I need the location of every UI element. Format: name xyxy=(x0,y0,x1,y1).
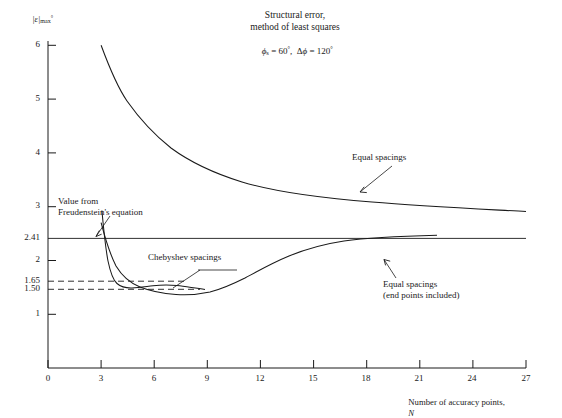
leader-freudenstein-head xyxy=(96,230,102,236)
series-equal-spacings-endpoints xyxy=(102,211,205,290)
y-axis-label: |ε|max° xyxy=(28,4,53,26)
x-axis-ticks xyxy=(48,360,526,368)
y-axis-label-degree: ° xyxy=(51,15,53,21)
annotation-equal-spacings-endpoints-line2: (end points included) xyxy=(383,290,459,301)
leader-equal-spacings xyxy=(360,166,392,192)
degree-sign-2: ° xyxy=(330,45,333,52)
x-tick-label-18: 18 xyxy=(356,373,376,384)
subtitle-separator: , Δ xyxy=(290,45,303,55)
leader-equal-endpoints xyxy=(384,260,396,279)
y-tick-label-6: 6 xyxy=(8,39,40,50)
x-tick-label-9: 9 xyxy=(197,373,217,384)
x-tick-label-0: 0 xyxy=(38,373,58,384)
series-equal-spacings xyxy=(101,45,526,211)
chart-subtitle: ϕs = 60°, Δϕ = 120° xyxy=(200,34,390,56)
y-axis-label-sub: max xyxy=(40,18,51,24)
delta-phi-value: = 120 xyxy=(307,45,330,55)
y-tick-label-4: 4 xyxy=(8,147,40,158)
x-tick-label-3: 3 xyxy=(91,373,111,384)
y-tick-label-5: 5 xyxy=(8,93,40,104)
x-tick-label-15: 15 xyxy=(303,373,323,384)
x-tick-label-21: 21 xyxy=(409,373,429,384)
y-tick-label-3: 3 xyxy=(8,200,40,211)
x-tick-label-27: 27 xyxy=(516,373,536,384)
leader-chebyshev xyxy=(173,270,200,288)
phi-s-value: = 60 xyxy=(269,45,288,55)
annotation-chebyshev-spacings: Chebyshev spacings xyxy=(148,252,221,263)
x-axis-title-text: Number of accuracy points, xyxy=(408,397,505,407)
y-tick-label-2: 2 xyxy=(8,254,40,265)
chart-title-line1: Structural error, xyxy=(200,10,390,21)
x-axis-title-symbol: N xyxy=(408,408,414,418)
y-axis-ticks xyxy=(48,45,56,314)
y-tick-label-1: 1 xyxy=(8,308,40,319)
y-tick-label-2-41: 2.41 xyxy=(4,232,40,243)
x-axis-title: Number of accuracy points, N xyxy=(404,387,505,418)
annotation-equal-spacings-endpoints-line1: Equal spacings xyxy=(383,279,437,290)
x-tick-label-12: 12 xyxy=(250,373,270,384)
chart-title-line2: method of least squares xyxy=(200,22,390,33)
annotation-value-from-freudenstein-line2: Freudenstein's equation xyxy=(58,207,143,218)
x-tick-label-6: 6 xyxy=(144,373,164,384)
axis-lines xyxy=(48,41,526,368)
annotation-leader-lines xyxy=(96,166,396,288)
annotation-equal-spacings-upper: Equal spacings xyxy=(352,152,406,163)
x-tick-label-24: 24 xyxy=(462,373,482,384)
annotation-value-from-freudenstein-line1: Value from xyxy=(58,196,98,207)
y-tick-label-1-50: 1.50 xyxy=(4,283,40,294)
